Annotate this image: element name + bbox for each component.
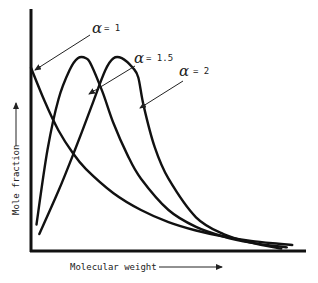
annotation-alpha-2-arrow (140, 81, 183, 108)
series-layer (31, 57, 292, 249)
annotation-alpha-2-value: = 2 (193, 66, 209, 76)
x-axis-label: Molecular weight (70, 262, 157, 272)
x-axis-label-group: Molecular weight (70, 262, 222, 272)
annotation-alpha-1-value: = 1 (104, 23, 120, 33)
chart: α = 1 α = 1.5 α = 2 Mole fraction Molecu… (0, 0, 318, 283)
annotation-alpha-1-5-arrow (89, 66, 135, 94)
annotation-alpha-1-5-symbol: α (134, 49, 144, 67)
annotation-alpha-1: α = 1 (35, 19, 120, 70)
annotation-alpha-2: α = 2 (140, 62, 209, 108)
y-axis-label-group: Mole fraction (11, 103, 21, 215)
annotation-alpha-1-5-value: = 1.5 (146, 53, 173, 63)
annotation-alpha-1-arrow (35, 35, 90, 70)
annotation-alpha-1-symbol: α (92, 19, 102, 37)
annotation-alpha-2-symbol: α (179, 62, 189, 80)
y-axis-label: Mole fraction (11, 145, 21, 215)
